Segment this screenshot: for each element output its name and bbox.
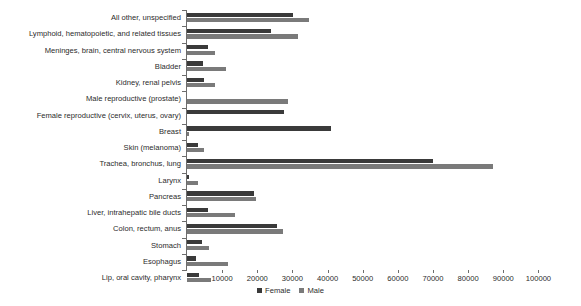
category-label: Breast bbox=[1, 128, 181, 136]
category-label: All other, unspecified bbox=[1, 14, 181, 22]
bar-female bbox=[187, 191, 254, 195]
bar-male bbox=[187, 67, 226, 71]
bar-male bbox=[187, 99, 288, 103]
bar-male bbox=[187, 51, 215, 55]
chart-row: Breast bbox=[0, 124, 581, 140]
bar-female bbox=[187, 13, 293, 17]
legend-label: Female bbox=[265, 287, 290, 295]
legend-item-male[interactable]: Male bbox=[299, 287, 323, 295]
y-axis-tick bbox=[182, 108, 186, 109]
bar-female bbox=[187, 143, 198, 147]
x-axis-ticks: 1000020000300004000050000600007000080000… bbox=[0, 270, 581, 284]
x-axis-tick-label: 10000 bbox=[212, 270, 233, 283]
x-axis-tick-label: 70000 bbox=[422, 270, 443, 283]
chart-row: Female reproductive (cervix, uterus, ova… bbox=[0, 108, 581, 124]
chart-rows: All other, unspecifiedLymphoid, hematopo… bbox=[0, 10, 581, 270]
y-axis-tick bbox=[182, 140, 186, 141]
chart-row: Esophagus bbox=[0, 254, 581, 270]
bar-female bbox=[187, 175, 189, 179]
bar-male bbox=[187, 181, 198, 185]
category-label: Bladder bbox=[1, 63, 181, 71]
bar-female bbox=[187, 61, 203, 65]
category-label: Skin (melanoma) bbox=[1, 144, 181, 152]
category-label: Lymphoid, hematopoietic, and related tis… bbox=[1, 31, 181, 39]
y-axis-tick bbox=[182, 221, 186, 222]
chart-row: Stomach bbox=[0, 238, 581, 254]
bar-male bbox=[187, 229, 283, 233]
chart-row: Lymphoid, hematopoietic, and related tis… bbox=[0, 26, 581, 42]
bar-female bbox=[187, 256, 196, 260]
y-axis-tick bbox=[182, 59, 186, 60]
bar-male bbox=[187, 262, 228, 266]
x-axis-tick-label: 40000 bbox=[317, 270, 338, 283]
bar-male bbox=[187, 132, 189, 136]
bar-male bbox=[187, 83, 215, 87]
bar-male bbox=[187, 18, 309, 22]
category-label: Male reproductive (prostate) bbox=[1, 96, 181, 104]
category-label: Liver, intrahepatic bile ducts bbox=[1, 209, 181, 217]
y-axis-tick bbox=[182, 75, 186, 76]
x-axis-tick-label: 50000 bbox=[352, 270, 373, 283]
bar-female bbox=[187, 29, 271, 33]
category-label: Larynx bbox=[1, 177, 181, 185]
y-axis-tick bbox=[182, 205, 186, 206]
legend-swatch-icon bbox=[257, 288, 262, 293]
chart-row: Pancreas bbox=[0, 189, 581, 205]
chart-row: All other, unspecified bbox=[0, 10, 581, 26]
y-axis-tick bbox=[182, 254, 186, 255]
bar-female bbox=[187, 110, 284, 114]
bar-male bbox=[187, 164, 493, 168]
category-label: Colon, rectum, anus bbox=[1, 226, 181, 234]
category-label: Stomach bbox=[1, 242, 181, 250]
category-label: Meninges, brain, central nervous system bbox=[1, 47, 181, 55]
chart-legend: FemaleMale bbox=[0, 287, 581, 295]
bar-male bbox=[187, 213, 235, 217]
bar-female bbox=[187, 224, 277, 228]
y-axis-tick bbox=[182, 10, 186, 11]
bar-male bbox=[187, 197, 256, 201]
x-axis-tick-label: 30000 bbox=[282, 270, 303, 283]
y-axis-tick bbox=[182, 124, 186, 125]
chart-row: Trachea, bronchus, lung bbox=[0, 156, 581, 172]
y-axis-tick bbox=[182, 91, 186, 92]
chart-row: Liver, intrahepatic bile ducts bbox=[0, 205, 581, 221]
y-axis-tick bbox=[182, 173, 186, 174]
x-axis-tick-label: 80000 bbox=[458, 270, 479, 283]
bar-female bbox=[187, 78, 204, 82]
x-axis-tick-label: 60000 bbox=[387, 270, 408, 283]
chart-row: Bladder bbox=[0, 59, 581, 75]
bar-male bbox=[187, 246, 209, 250]
category-label: Trachea, bronchus, lung bbox=[1, 161, 181, 169]
y-axis-tick bbox=[182, 26, 186, 27]
legend-item-female[interactable]: Female bbox=[257, 287, 290, 295]
category-label: Esophagus bbox=[1, 258, 181, 266]
bar-female bbox=[187, 45, 208, 49]
bar-female bbox=[187, 208, 208, 212]
y-axis-tick bbox=[182, 189, 186, 190]
bar-female bbox=[187, 159, 433, 163]
y-axis-tick bbox=[182, 43, 186, 44]
chart-row: Larynx bbox=[0, 173, 581, 189]
bar-male bbox=[187, 148, 204, 152]
x-axis-tick-label: 90000 bbox=[493, 270, 514, 283]
y-axis-tick bbox=[182, 156, 186, 157]
chart-row: Skin (melanoma) bbox=[0, 140, 581, 156]
chart-row: Meninges, brain, central nervous system bbox=[0, 43, 581, 59]
chart-row: Male reproductive (prostate) bbox=[0, 91, 581, 107]
x-axis-tick-label: 20000 bbox=[247, 270, 268, 283]
horizontal-bar-chart: All other, unspecifiedLymphoid, hematopo… bbox=[0, 0, 581, 306]
bar-female bbox=[187, 126, 331, 130]
category-label: Kidney, renal pelvis bbox=[1, 79, 181, 87]
category-label: Female reproductive (cervix, uterus, ova… bbox=[1, 112, 181, 120]
legend-label: Male bbox=[307, 287, 323, 295]
x-axis-tick-label: 100000 bbox=[526, 270, 551, 283]
chart-row: Kidney, renal pelvis bbox=[0, 75, 581, 91]
chart-row: Colon, rectum, anus bbox=[0, 221, 581, 237]
bar-male bbox=[187, 34, 298, 38]
y-axis-tick bbox=[182, 238, 186, 239]
legend-swatch-icon bbox=[299, 288, 304, 293]
category-label: Pancreas bbox=[1, 193, 181, 201]
bar-female bbox=[187, 240, 202, 244]
